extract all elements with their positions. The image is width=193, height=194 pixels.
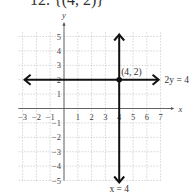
x-tick-label: 1: [76, 112, 80, 122]
y-tick-label: −3: [52, 147, 61, 157]
y-tick-label: 1: [57, 89, 61, 99]
coordinate-plane: xy−3−2−11234567−5−4−3−2−112345(4, 2)2y =…: [0, 0, 193, 193]
x-tick-label: −2: [32, 112, 41, 122]
y-tick-label: 5: [57, 32, 61, 42]
x-tick-label: 5: [131, 112, 135, 122]
x-tick-label: 6: [145, 112, 149, 122]
y-tick-label: 3: [57, 60, 61, 70]
x-axis-label: x: [178, 104, 183, 114]
y-tick-label: −5: [52, 176, 61, 186]
y-axis-arrow-icon: [62, 22, 65, 26]
y-tick-label: −1: [52, 118, 61, 128]
y-axis-label: y: [61, 10, 66, 20]
x-tick-label: 2: [89, 112, 93, 122]
y-tick-label: −4: [52, 161, 62, 171]
equation-label-2y-equals-4: 2y = 4: [165, 75, 190, 85]
x-tick-label: −3: [18, 112, 27, 122]
y-tick-label: −2: [52, 132, 61, 142]
x-axis-arrow-icon: [171, 107, 174, 110]
intersection-point: [116, 77, 122, 83]
point-label: (4, 2): [121, 67, 142, 78]
x-tick-label: 3: [103, 112, 107, 122]
equation-label-x-equals-4: x = 4: [109, 184, 129, 194]
x-tick-label: 7: [158, 112, 162, 122]
